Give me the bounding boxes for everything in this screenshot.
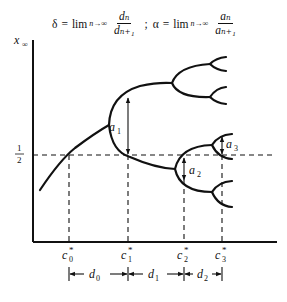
svg-text:2: 2 — [204, 274, 208, 283]
a2-sub: 2 — [197, 170, 201, 179]
d1-label: d 1 — [148, 267, 159, 283]
svg-text:c: c — [177, 248, 183, 262]
svg-text:1: 1 — [155, 274, 159, 283]
half-label: 1 2 — [15, 143, 24, 165]
a2-label: a — [189, 163, 195, 177]
svg-text:d: d — [148, 267, 155, 281]
d0-label: d 0 — [89, 267, 100, 283]
svg-text:*: * — [128, 245, 133, 255]
a1-label: a — [109, 120, 115, 134]
svg-text:1: 1 — [128, 255, 132, 264]
svg-text:c: c — [62, 248, 68, 262]
svg-text:c: c — [121, 248, 127, 262]
c0-label: c * 0 — [62, 245, 74, 264]
a1-sub: 1 — [117, 127, 121, 136]
y-axis-label: x — [13, 33, 20, 47]
y-axis-label-sub: ∞ — [22, 40, 28, 49]
svg-text:d: d — [197, 267, 204, 281]
svg-text:2: 2 — [184, 255, 188, 264]
c1-label: c * 1 — [121, 245, 133, 264]
svg-text:1: 1 — [17, 143, 22, 153]
bifurcation-diagram: x ∞ 1 2 a 1 — [0, 0, 287, 302]
svg-text:*: * — [184, 245, 189, 255]
svg-text:0: 0 — [96, 274, 100, 283]
stem-curve — [40, 125, 109, 190]
c2-label: c * 2 — [177, 245, 189, 264]
c-dashed-lines — [69, 155, 222, 242]
svg-text:*: * — [69, 245, 74, 255]
svg-text:d: d — [89, 267, 96, 281]
d2-label: d 2 — [197, 267, 208, 283]
svg-text:2: 2 — [17, 155, 22, 165]
svg-text:*: * — [222, 245, 227, 255]
c3-label: c * 3 — [215, 245, 227, 264]
a3-sub: 3 — [234, 144, 238, 153]
svg-text:c: c — [215, 248, 221, 262]
svg-text:3: 3 — [222, 255, 226, 264]
branch-upper-1 — [109, 83, 172, 125]
svg-text:0: 0 — [69, 255, 73, 264]
a3-label: a — [226, 137, 232, 151]
